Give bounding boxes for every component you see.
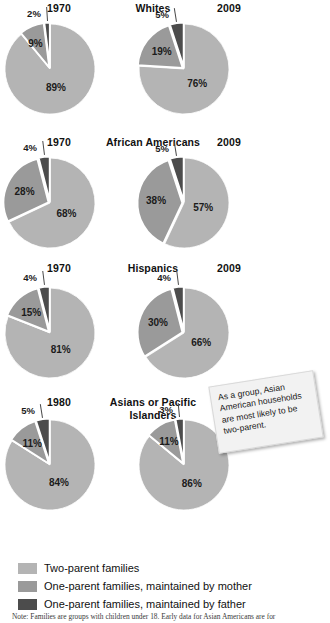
slice-value-label: 30% — [148, 317, 168, 328]
pie-chart: 57%38%5% — [123, 142, 245, 278]
slice-value-label: 57% — [193, 202, 213, 213]
slice-value-label: 89% — [46, 82, 66, 93]
slice-value-label: 4% — [23, 142, 37, 153]
pie-svg — [0, 272, 111, 408]
legend-swatch — [18, 563, 37, 574]
slice-value-label: 11% — [22, 438, 41, 449]
slice-value-label: 4% — [157, 272, 171, 283]
legend-label: One-parent families, maintained by mothe… — [44, 580, 252, 592]
slice-value-label: 11% — [159, 436, 178, 447]
callout-text: As a group, Asian American households ar… — [217, 378, 315, 437]
pie-chart: 68%28%4% — [0, 142, 111, 278]
slice-value-label: 68% — [56, 208, 76, 219]
pie-chart: 76%19%5% — [123, 8, 245, 144]
pie-chart: 84%11%5% — [0, 404, 111, 540]
slice-value-label: 19% — [152, 46, 172, 57]
slice-value-label: 81% — [51, 344, 71, 355]
legend-label: One-parent families, maintained by fathe… — [44, 598, 246, 610]
legend: Two-parent familiesOne-parent families, … — [18, 560, 318, 614]
pie-svg — [123, 8, 245, 144]
slice-value-label: 15% — [21, 307, 41, 318]
slice-value-label: 4% — [23, 272, 37, 283]
legend-label: Two-parent families — [44, 562, 139, 574]
pie-chart: 89%9%2% — [0, 8, 111, 144]
legend-item: One-parent families, maintained by fathe… — [18, 596, 318, 612]
footnote: Note: Families are groups with children … — [12, 612, 328, 623]
slice-value-label: 76% — [187, 78, 207, 89]
legend-swatch — [18, 599, 37, 610]
slice-value-label: 66% — [191, 337, 211, 348]
slice-value-label: 3% — [159, 404, 173, 415]
pie-chart: 81%15%4% — [0, 272, 111, 408]
slice-value-label: 5% — [21, 405, 35, 416]
slice-value-label: 2% — [27, 8, 41, 19]
slice-value-label: 38% — [146, 195, 166, 206]
pie-svg — [123, 142, 245, 278]
slice-value-label: 86% — [182, 478, 202, 489]
pie-svg — [0, 8, 111, 144]
slice-value-label: 9% — [28, 38, 42, 49]
slice-value-label: 84% — [49, 477, 69, 488]
pie-chart-figure: 19702009Whites89%9%2%76%19%5%19702009Afr… — [0, 0, 330, 623]
slice-value-label: 5% — [155, 9, 169, 20]
legend-item: Two-parent families — [18, 560, 318, 576]
legend-item: One-parent families, maintained by mothe… — [18, 578, 318, 594]
slice-value-label: 28% — [15, 186, 35, 197]
slice-value-label: 5% — [155, 143, 169, 154]
legend-swatch — [18, 581, 37, 592]
pie-svg — [0, 404, 111, 540]
